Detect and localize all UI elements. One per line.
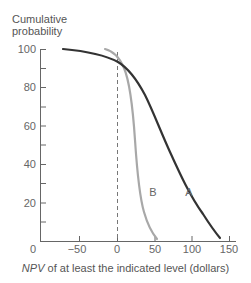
series-b-curve: [105, 49, 157, 239]
x-axis-title-npv: NPV: [22, 262, 45, 274]
x-axis-title-rest: of at least the indicated level (dollars…: [44, 262, 229, 274]
series-a-label: A: [185, 186, 193, 198]
x-tick-label-0: 0: [114, 243, 120, 255]
x-tick-label-neg50: −50: [68, 243, 87, 255]
y-tick-label-40: 40: [24, 158, 36, 170]
y-tick-label-60: 60: [24, 120, 36, 132]
x-axis-title: NPV of at least the indicated level (dol…: [0, 262, 251, 274]
chart-plot: 100 80 60 40 20 0 −50 0 50 100 150 B A: [0, 0, 251, 283]
y-tick-label-80: 80: [24, 81, 36, 93]
x-tick-label-150: 150: [220, 243, 238, 255]
origin-label: 0: [30, 243, 36, 255]
y-tick-label-100: 100: [18, 43, 36, 55]
x-tick-label-50: 50: [149, 243, 161, 255]
y-tick-label-20: 20: [24, 197, 36, 209]
series-b-label: B: [149, 186, 156, 198]
x-tick-label-100: 100: [183, 243, 201, 255]
series-a-curve: [63, 49, 220, 238]
